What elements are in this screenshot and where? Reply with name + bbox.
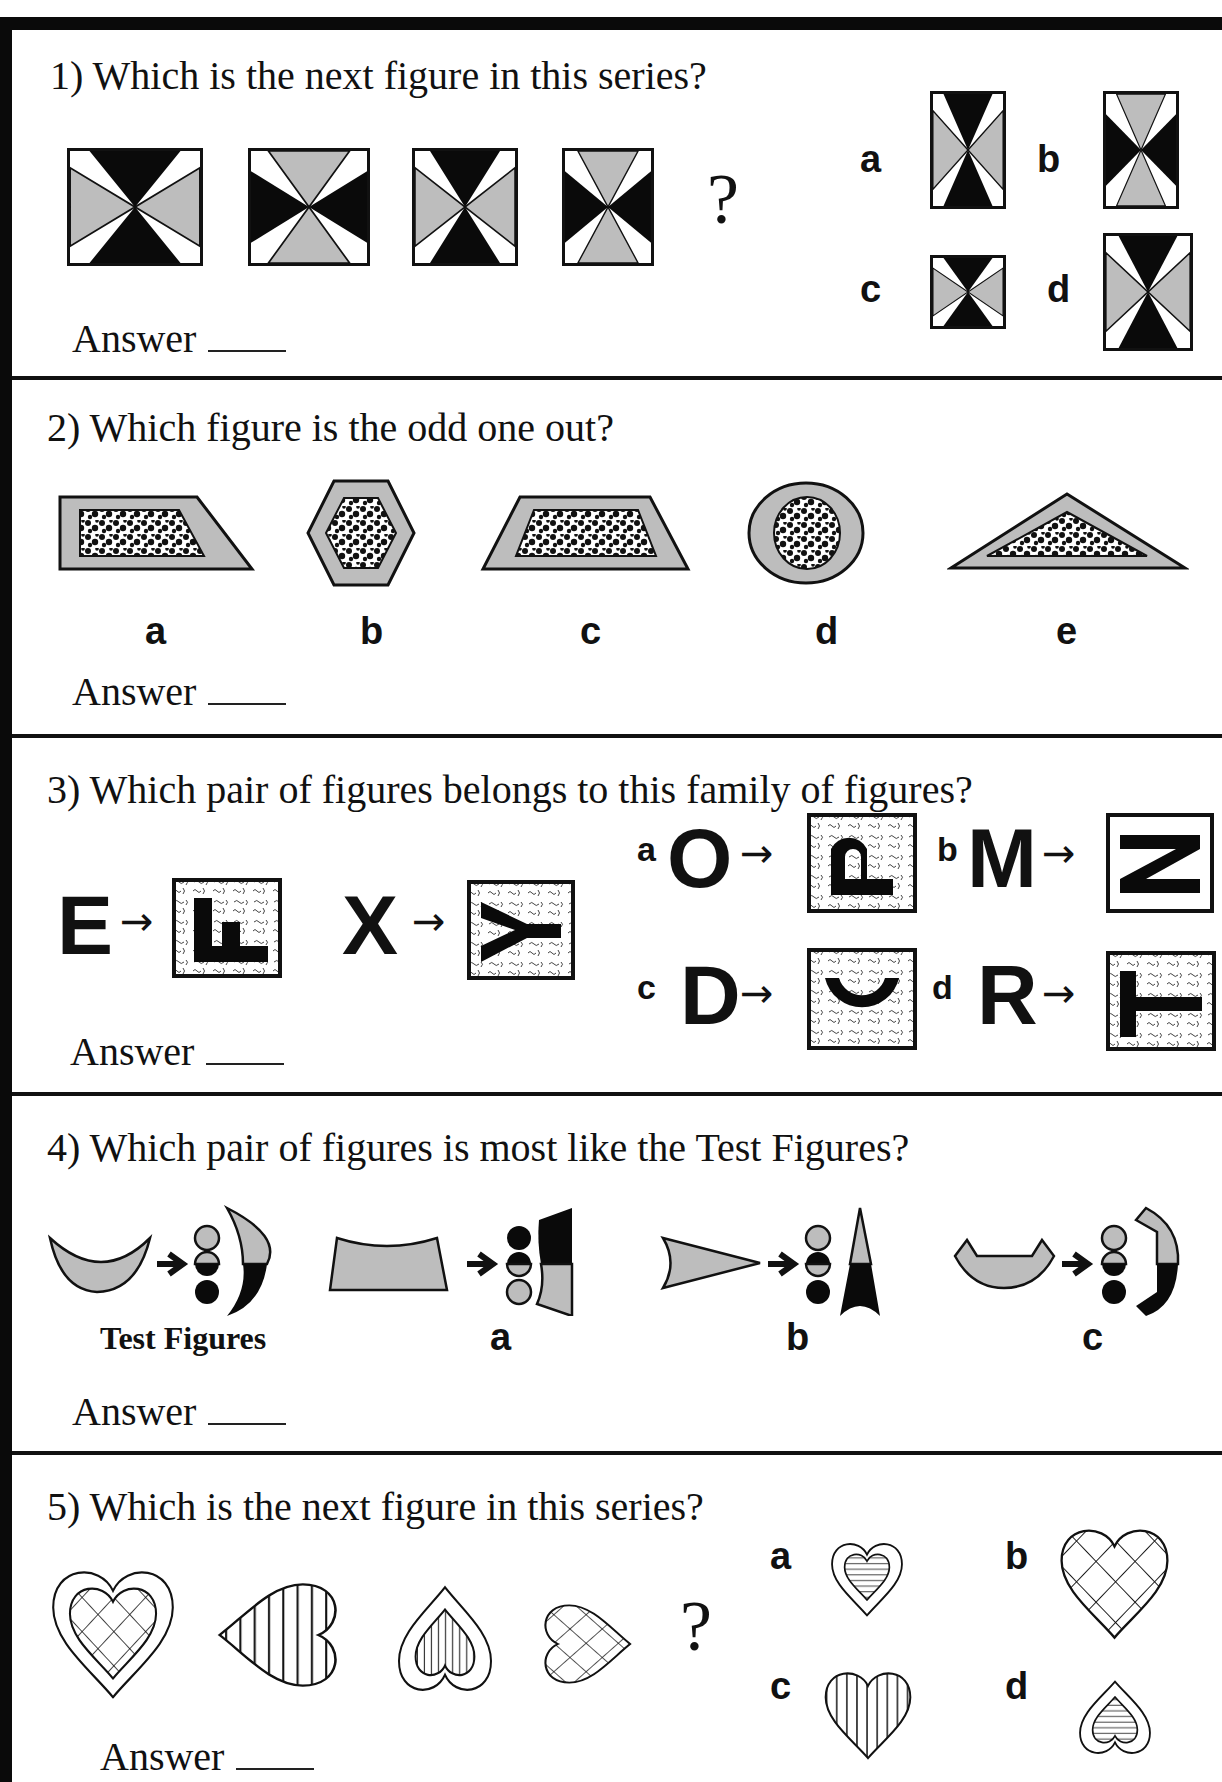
answer-blank[interactable] [208, 320, 286, 352]
question-4: 4) Which pair of figures is most like th… [12, 1096, 1222, 1452]
question-4-prompt: 4) Which pair of figures is most like th… [47, 1124, 909, 1171]
option-c-label[interactable]: c [580, 610, 601, 653]
option-d-label[interactable]: d [815, 610, 838, 653]
option-c-label[interactable]: c [1082, 1316, 1103, 1359]
example-1-box [172, 878, 282, 978]
example-1-letter: E [57, 883, 113, 967]
option-b-label[interactable]: b [360, 610, 383, 653]
option-c-figure[interactable] [930, 255, 1006, 329]
answer-line-2[interactable]: Answer [72, 668, 286, 715]
arrow-icon: → [412, 901, 446, 941]
series-heart-3 [395, 1585, 495, 1700]
option-e-label[interactable]: e [1056, 610, 1077, 653]
option-a-label[interactable]: a [490, 1316, 511, 1359]
option-b-label[interactable]: b [937, 830, 958, 869]
option-b-letter: M [967, 816, 1037, 900]
shape-b-hexagon[interactable] [304, 478, 418, 588]
series-figure-2 [248, 148, 370, 266]
answer-blank[interactable] [206, 1033, 284, 1065]
answer-label: Answer [70, 1029, 194, 1074]
question-2-prompt: 2) Which figure is the odd one out? [47, 404, 614, 451]
series-figure-3 [412, 148, 518, 266]
arrow-icon: → [1042, 833, 1076, 873]
option-d-label[interactable]: d [932, 968, 953, 1007]
answer-line-4[interactable]: Answer [72, 1388, 286, 1435]
option-a-label[interactable]: a [860, 138, 881, 181]
option-d-box[interactable] [1106, 951, 1216, 1051]
answer-blank[interactable] [208, 1393, 286, 1425]
test-figure-pair [47, 1196, 307, 1316]
question-5: 5) Which is the next figure in this seri… [12, 1455, 1222, 1782]
series-heart-1 [48, 1560, 178, 1700]
option-b-figure[interactable] [1103, 91, 1179, 209]
answer-label: Answer [72, 669, 196, 714]
series-figure-4 [562, 148, 654, 266]
option-a-figure[interactable] [930, 91, 1006, 209]
option-a-pair[interactable] [327, 1196, 627, 1316]
series-figure-1 [67, 148, 203, 266]
option-a-label[interactable]: a [637, 830, 656, 869]
option-c-label[interactable]: c [770, 1665, 791, 1708]
option-c-box[interactable] [807, 948, 917, 1050]
shape-a-parallelogram[interactable] [57, 492, 257, 572]
answer-blank[interactable] [208, 673, 286, 705]
option-c-label[interactable]: c [637, 968, 656, 1007]
answer-line-3[interactable]: Answer [70, 1028, 284, 1075]
answer-blank[interactable] [236, 1738, 314, 1770]
series-heart-4 [537, 1602, 632, 1686]
arrow-icon: → [120, 901, 154, 941]
option-c-pair[interactable] [952, 1196, 1212, 1316]
question-1: 1) Which is the next figure in this seri… [12, 30, 1222, 377]
option-b-label[interactable]: b [786, 1316, 809, 1359]
option-c-letter: D [680, 953, 741, 1037]
option-d-letter: R [977, 953, 1038, 1037]
option-b-label[interactable]: b [1037, 138, 1060, 181]
option-d-heart[interactable] [1077, 1680, 1153, 1760]
shape-e-triangle[interactable] [947, 490, 1189, 572]
option-c-label[interactable]: c [860, 268, 881, 311]
example-2-letter: X [342, 883, 398, 967]
question-5-prompt: 5) Which is the next figure in this seri… [47, 1483, 704, 1530]
answer-label: Answer [100, 1734, 224, 1779]
option-a-letter: O [667, 816, 732, 900]
option-b-label[interactable]: b [1005, 1535, 1028, 1578]
option-a-label[interactable]: a [145, 610, 166, 653]
option-b-box[interactable] [1106, 813, 1214, 913]
answer-line-1[interactable]: Answer [72, 315, 286, 362]
option-d-figure[interactable] [1103, 233, 1193, 351]
question-1-prompt: 1) Which is the next figure in this seri… [50, 52, 707, 99]
option-b-heart[interactable] [1057, 1520, 1172, 1640]
answer-label: Answer [72, 316, 196, 361]
question-mark: ? [707, 158, 739, 241]
arrow-icon: → [740, 833, 774, 873]
option-a-label[interactable]: a [770, 1535, 791, 1578]
top-border [0, 17, 1222, 30]
example-2-box [467, 880, 575, 980]
question-3: 3) Which pair of figures belongs to this… [12, 738, 1222, 1093]
option-d-label[interactable]: d [1005, 1665, 1028, 1708]
arrow-icon: → [740, 973, 774, 1013]
question-mark: ? [680, 1585, 712, 1668]
option-b-pair[interactable] [660, 1196, 920, 1316]
question-2: 2) Which figure is the odd one out? a b … [12, 380, 1222, 735]
option-c-heart[interactable] [822, 1665, 914, 1760]
answer-line-5[interactable]: Answer [100, 1733, 314, 1780]
option-d-label[interactable]: d [1047, 268, 1070, 311]
arrow-icon: → [1042, 973, 1076, 1013]
series-heart-2 [217, 1580, 347, 1690]
option-a-heart[interactable] [829, 1537, 905, 1617]
question-3-prompt: 3) Which pair of figures belongs to this… [47, 766, 973, 813]
answer-label: Answer [72, 1389, 196, 1434]
left-border [0, 17, 12, 1782]
shape-d-ellipse[interactable] [745, 480, 867, 586]
shape-c-trapezoid[interactable] [480, 492, 692, 572]
option-a-box[interactable] [807, 813, 917, 913]
test-figures-label: Test Figures [100, 1320, 266, 1357]
